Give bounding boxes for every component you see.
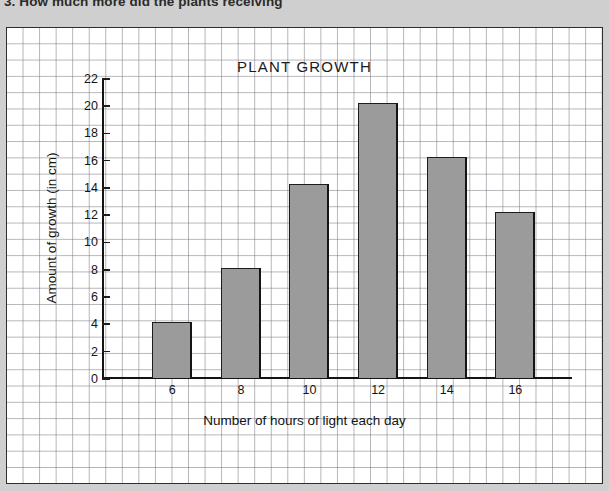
x-tick-label-12: 12 bbox=[371, 383, 385, 397]
y-axis-title: Amount of growth (in cm) bbox=[44, 153, 59, 304]
bar-chart: PLANT GROWTH Amount of growth (in cm) 02… bbox=[7, 28, 602, 483]
y-tick-label: 16 bbox=[84, 154, 98, 168]
x-tick-label-14: 14 bbox=[440, 383, 454, 397]
bar-12-hours bbox=[358, 103, 398, 378]
bar-8-hours bbox=[221, 268, 261, 378]
bar-6-hours bbox=[152, 322, 192, 378]
worksheet-question-text: 3. How much more did the plants receivin… bbox=[4, 0, 604, 13]
x-axis-title: Number of hours of light each day bbox=[7, 413, 602, 428]
x-tick-label-6: 6 bbox=[169, 383, 176, 397]
bar-10-hours bbox=[289, 184, 329, 378]
y-tick-label: 2 bbox=[91, 345, 98, 359]
x-tick-label-8: 8 bbox=[237, 383, 244, 397]
y-tick-label: 0 bbox=[91, 372, 98, 386]
y-tick-label: 12 bbox=[84, 208, 98, 222]
y-tick-label: 10 bbox=[84, 235, 98, 249]
plot-area bbox=[102, 78, 572, 378]
y-tick-label: 6 bbox=[91, 290, 98, 304]
bar-16-hours bbox=[495, 212, 535, 378]
y-tick-label: 22 bbox=[84, 72, 98, 86]
y-tick-0: 0 bbox=[102, 378, 110, 380]
y-tick-label: 18 bbox=[84, 126, 98, 140]
y-tick-label: 8 bbox=[91, 263, 98, 277]
y-tick-label: 4 bbox=[91, 317, 98, 331]
x-tick-label-16: 16 bbox=[508, 383, 522, 397]
graph-paper-panel: PLANT GROWTH Amount of growth (in cm) 02… bbox=[6, 27, 603, 484]
y-tick-label: 20 bbox=[84, 99, 98, 113]
y-tick-label: 14 bbox=[84, 181, 98, 195]
x-tick-label-10: 10 bbox=[303, 383, 317, 397]
bar-14-hours bbox=[427, 157, 467, 378]
